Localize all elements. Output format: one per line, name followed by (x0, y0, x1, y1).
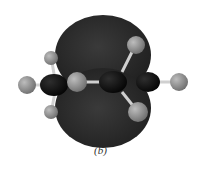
hydrogen-atom (44, 105, 58, 119)
orbital-illustration (0, 0, 201, 150)
figure-caption: (b) (0, 144, 201, 156)
hydrogen-atom (127, 36, 145, 54)
molecular-orbital-figure (0, 0, 201, 150)
carbon-atom (136, 72, 160, 92)
carbon-atom (40, 74, 68, 96)
hydrogen-atom (67, 72, 87, 92)
hydrogen-atom (128, 102, 148, 122)
hydrogen-atom (44, 51, 58, 65)
carbon-atom (99, 71, 127, 93)
hydrogen-atom (18, 76, 36, 94)
hydrogen-atom (170, 73, 188, 91)
